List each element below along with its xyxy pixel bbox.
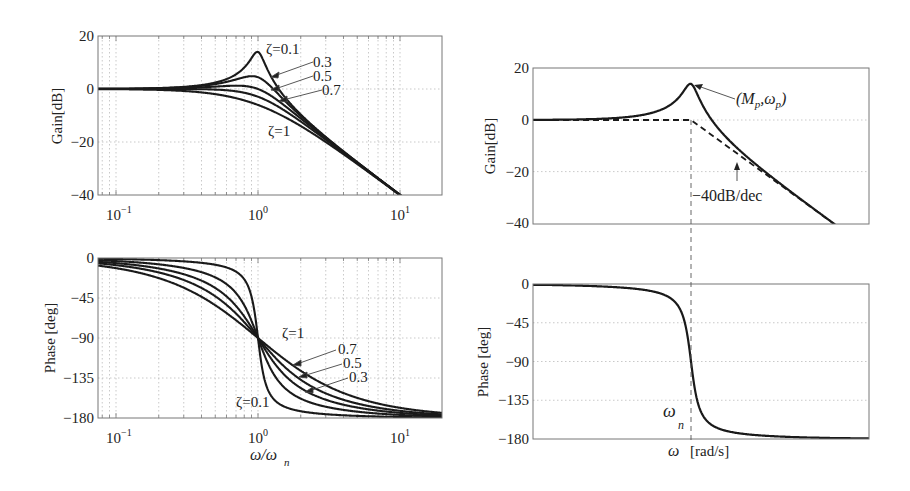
right-gain-ylabel: Gain[dB] <box>482 118 498 175</box>
right-phase-plot: 0−45−90−135−180 Phase [deg] ω n ω [rad/s… <box>475 276 869 459</box>
right-phase-ylabel: Phase [deg] <box>475 327 491 397</box>
svg-text:(Mp,ωp): (Mp,ωp) <box>736 90 786 110</box>
xlabel-sub-n: n <box>284 456 290 468</box>
ytick-label: −180 <box>498 431 529 447</box>
wn-label: ω <box>663 401 676 421</box>
right-phase-grid <box>533 323 869 401</box>
left-gain-yticks: 200−20−40 <box>71 28 94 203</box>
ytick-label: −45 <box>506 315 529 331</box>
ytick-label: −40 <box>506 215 529 231</box>
peak-annotation: (Mp,ωp) <box>694 84 786 110</box>
ytick-label: −135 <box>63 370 94 386</box>
left-phase-ylabel: Phase [deg] <box>42 303 58 373</box>
ytick-label: −20 <box>71 134 94 150</box>
ytick-label: −135 <box>498 392 529 408</box>
phase-curve-zeta-0.7 <box>98 263 442 414</box>
right-gain-yticks: 200−20−40 <box>506 60 529 231</box>
xtick-label: 10−1 <box>106 204 132 223</box>
left-gain-ylabel: Gain[dB] <box>49 88 65 145</box>
gain-curve-zeta-0.3 <box>98 76 442 226</box>
left-gain-xticks: 10−1100101 <box>106 204 410 223</box>
slope-annotation: −40dB/dec <box>692 162 762 204</box>
left-phase-xticks: 10−1100101 <box>106 427 410 446</box>
ytick-label: −90 <box>506 354 529 370</box>
gain-curve-zeta-0.1 <box>98 52 442 227</box>
peak-label-omega: ,ω <box>760 90 775 107</box>
xtick-label: 101 <box>390 427 410 446</box>
ytick-label: 20 <box>514 60 529 76</box>
xtick-label: 100 <box>248 204 268 223</box>
label-zeta-0.1: ζ=0.1 <box>266 41 299 57</box>
bode-figure: 200−20−40 10−1100101 Gain[dB] ζ=0.1 0.3 … <box>0 0 910 491</box>
xlabel-unit: [rad/s] <box>690 443 729 459</box>
phase-curve-zeta-1 <box>98 266 442 413</box>
peak-label-close: ) <box>780 90 786 108</box>
ytick-label: 0 <box>87 81 95 97</box>
left-phase-yticks: 0−45−90−135−180 <box>63 250 94 426</box>
left-gain-axes-box <box>98 36 442 195</box>
left-gain-grid <box>98 36 442 195</box>
peak-label-M: (M <box>736 90 756 108</box>
ytick-label: −180 <box>63 410 94 426</box>
ytick-label: 0 <box>87 250 95 266</box>
slope-label: −40dB/dec <box>692 187 762 204</box>
xtick-label: 101 <box>390 204 410 223</box>
ytick-label: 20 <box>79 28 94 44</box>
gain-curve-zeta-0.5 <box>98 86 442 227</box>
ytick-label: −20 <box>506 164 529 180</box>
ytick-label: −45 <box>71 290 94 306</box>
left-gain-plot: 200−20−40 10−1100101 Gain[dB] ζ=0.1 0.3 … <box>49 28 442 226</box>
ytick-label: 0 <box>522 112 530 128</box>
ytick-label: 0 <box>522 276 530 292</box>
label-zeta-1: ζ=1 <box>268 123 290 139</box>
ytick-label: −40 <box>71 187 94 203</box>
phase-label-zeta-0.1: ζ=0.1 <box>236 394 269 410</box>
ytick-label: −90 <box>71 330 94 346</box>
wn-sub: n <box>678 418 684 432</box>
xlabel-omega-ratio: ω/ω <box>250 446 277 463</box>
xtick-label: 10−1 <box>106 427 132 446</box>
left-phase-plot: 0−45−90−135−180 10−1100101 Phase [deg] ω… <box>42 250 442 468</box>
right-gain-plot: 200−20−40 Gain[dB] (Mp,ωp) −40dB/dec <box>482 60 869 249</box>
phase-label-zeta-1: ζ=1 <box>282 325 304 341</box>
gain-curve-zeta-1 <box>98 89 442 226</box>
xlabel-omega: ω <box>668 442 679 459</box>
left-gain-curves <box>98 52 442 227</box>
right-phase-yticks: 0−45−90−135−180 <box>498 276 529 447</box>
phase-label-zeta-0.3: 0.3 <box>349 369 368 385</box>
left-phase-xlabel: ω/ω n <box>250 446 290 468</box>
label-zeta-0.7: 0.7 <box>322 82 341 98</box>
xtick-label: 100 <box>248 427 268 446</box>
